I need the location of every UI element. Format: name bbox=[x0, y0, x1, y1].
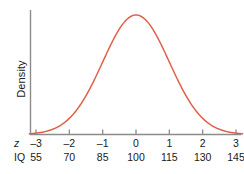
tick-label: 55 bbox=[19, 150, 53, 164]
x-axis-row-iq: IQ 55 70 85 100 115 130 145 bbox=[0, 150, 244, 164]
tick-label: 100 bbox=[119, 150, 153, 164]
tick-label: 1 bbox=[152, 136, 186, 150]
tick-label: 2 bbox=[186, 136, 220, 150]
x-axis-row-z: z –3 –2 –1 0 1 2 3 bbox=[0, 136, 244, 150]
tick-label: –2 bbox=[52, 136, 86, 150]
tick-label: 115 bbox=[152, 150, 186, 164]
normal-density-curve bbox=[29, 15, 242, 134]
tick-label: 145 bbox=[219, 150, 244, 164]
tick-label: 85 bbox=[86, 150, 120, 164]
density-chart-figure: Density z –3 –2 –1 0 1 2 3 IQ 55 70 85 1… bbox=[0, 0, 244, 174]
tick-label: –3 bbox=[19, 136, 53, 150]
x-axis-ticks bbox=[36, 130, 236, 135]
tick-label: 0 bbox=[119, 136, 153, 150]
tick-label: –1 bbox=[86, 136, 120, 150]
x-axis-label-rows: z –3 –2 –1 0 1 2 3 IQ 55 70 85 100 115 1… bbox=[0, 136, 244, 164]
x-axis bbox=[30, 130, 241, 135]
tick-label: 130 bbox=[186, 150, 220, 164]
y-axis-label: Density bbox=[14, 19, 28, 139]
tick-label: 70 bbox=[52, 150, 86, 164]
tick-label: 3 bbox=[219, 136, 244, 150]
